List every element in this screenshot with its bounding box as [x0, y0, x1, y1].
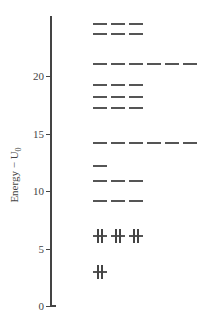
y-tick-mark [46, 76, 51, 77]
y-axis-line [50, 16, 52, 307]
electron-pair-icon [111, 229, 125, 243]
electron-pair-icon [93, 265, 107, 279]
orbital-dash [93, 142, 107, 144]
orbital-dash [111, 63, 125, 65]
orbital-dash [111, 96, 125, 98]
orbital-dash [93, 63, 107, 65]
energy-level-diagram: 05101520 Energy − U0 [0, 0, 207, 325]
y-axis-label-text: Energy − U [8, 151, 20, 202]
orbital-dash [111, 200, 125, 202]
orbital-dash [111, 107, 125, 109]
orbital-dash [129, 200, 143, 202]
orbital-dash [93, 96, 107, 98]
orbital-dash [147, 142, 161, 144]
y-axis-label-subscript: 0 [14, 147, 23, 151]
orbital-dash [165, 142, 179, 144]
orbital-dash [129, 96, 143, 98]
orbital-dash [93, 23, 107, 25]
orbital-dash [165, 63, 179, 65]
orbital-dash [129, 23, 143, 25]
orbital-dash [183, 142, 197, 144]
orbital-dash [93, 33, 107, 35]
orbital-dash [147, 63, 161, 65]
orbital-dash [129, 107, 143, 109]
orbital-dash [129, 33, 143, 35]
electron-pair-icon [129, 229, 143, 243]
orbital-dash [183, 63, 197, 65]
orbital-dash [129, 63, 143, 65]
y-tick-mark [46, 249, 51, 250]
orbital-dash [111, 33, 125, 35]
orbital-dash [111, 142, 125, 144]
y-tick-label: 5 [22, 243, 44, 255]
orbital-dash [93, 180, 107, 182]
orbital-dash [111, 84, 125, 86]
orbital-dash [129, 180, 143, 182]
y-tick-label: 10 [22, 185, 44, 197]
orbital-dash [111, 23, 125, 25]
orbital-dash [129, 84, 143, 86]
orbital-dash [111, 180, 125, 182]
orbital-dash [93, 200, 107, 202]
orbital-dash [129, 142, 143, 144]
y-axis-label: Energy − U0 [8, 130, 22, 220]
y-tick-label: 20 [22, 70, 44, 82]
electron-pair-icon [93, 229, 107, 243]
orbital-dash [93, 165, 107, 167]
y-tick-mark [46, 306, 51, 307]
y-tick-label: 15 [22, 128, 44, 140]
orbital-dash [93, 107, 107, 109]
y-tick-label: 0 [22, 300, 44, 312]
y-tick-mark [46, 191, 51, 192]
y-tick-mark [46, 134, 51, 135]
orbital-dash [93, 84, 107, 86]
